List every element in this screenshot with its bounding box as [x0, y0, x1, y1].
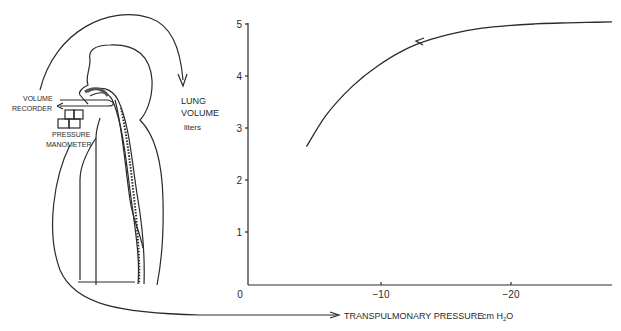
y-tick-5: 5	[236, 19, 242, 30]
y-label-line2: VOLUME	[181, 108, 219, 118]
y-tick-4: 4	[236, 71, 242, 82]
y-axis-label: LUNG VOLUME liters	[181, 96, 219, 132]
label-pressure: PRESSURE	[52, 131, 91, 138]
face-outline	[79, 60, 90, 104]
pv-curve	[307, 22, 613, 147]
manometer-box-4	[69, 119, 80, 128]
axes	[245, 23, 612, 285]
label-manometer: MANOMETER	[46, 141, 92, 148]
x-tick-minus10: −10	[373, 289, 390, 300]
subject-diagram	[40, 15, 339, 318]
curve-line	[307, 22, 613, 147]
manometer-box-3	[58, 119, 69, 128]
x-tick-0: 0	[237, 289, 243, 300]
curved-arrow-top	[40, 15, 183, 90]
figure-canvas: VOLUME RECORDER PRESSURE MANOMETER LUNG …	[0, 0, 621, 331]
y-label-units: liters	[184, 123, 201, 132]
y-tick-3: 3	[236, 123, 242, 134]
y-tick-1: 1	[236, 227, 242, 238]
curved-arrow-bottom	[53, 145, 338, 315]
label-volume: VOLUME	[23, 95, 53, 102]
neck-front	[96, 118, 100, 285]
manometer-box-1	[65, 110, 74, 119]
x-axis-label: TRANSPULMONARY PRESSURE cm H2O	[344, 311, 513, 322]
y-tick-labels: 5 4 3 2 1	[236, 19, 242, 238]
label-recorder: RECORDER	[12, 105, 52, 112]
spine-hatch	[121, 108, 139, 284]
manometer-box-2	[74, 110, 83, 119]
x-label-units: cm H2O	[482, 311, 513, 322]
y-tick-2: 2	[236, 175, 242, 186]
x-tick-minus20: −20	[503, 289, 520, 300]
x-tick-labels: 0 −10 −20	[237, 289, 520, 300]
x-label-text: TRANSPULMONARY PRESSURE	[344, 311, 483, 321]
chest-outline	[80, 138, 96, 280]
y-label-line1: LUNG	[181, 96, 206, 106]
